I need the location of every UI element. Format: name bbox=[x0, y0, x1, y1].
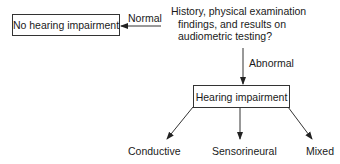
outcome-sensorineural: Sensorineural bbox=[212, 145, 277, 157]
hearing-impairment-box: Hearing impairment bbox=[193, 85, 290, 108]
assessment-question: History, physical examination findings, … bbox=[161, 5, 321, 43]
question-line-2: findings, and results on bbox=[161, 18, 321, 31]
question-line-3: audiometric testing? bbox=[161, 30, 321, 43]
abnormal-edge-label: Abnormal bbox=[249, 57, 294, 69]
no-hearing-impairment-box: No hearing impairment bbox=[12, 14, 120, 36]
normal-edge-label: Normal bbox=[128, 12, 162, 24]
outcome-conductive: Conductive bbox=[128, 145, 181, 157]
no-hearing-impairment-label: No hearing impairment bbox=[13, 19, 119, 31]
conductive-arrow bbox=[167, 107, 193, 139]
outcome-mixed: Mixed bbox=[306, 145, 334, 157]
question-line-1: History, physical examination bbox=[161, 5, 321, 18]
mixed-arrow bbox=[288, 107, 312, 139]
hearing-impairment-label: Hearing impairment bbox=[196, 91, 288, 103]
